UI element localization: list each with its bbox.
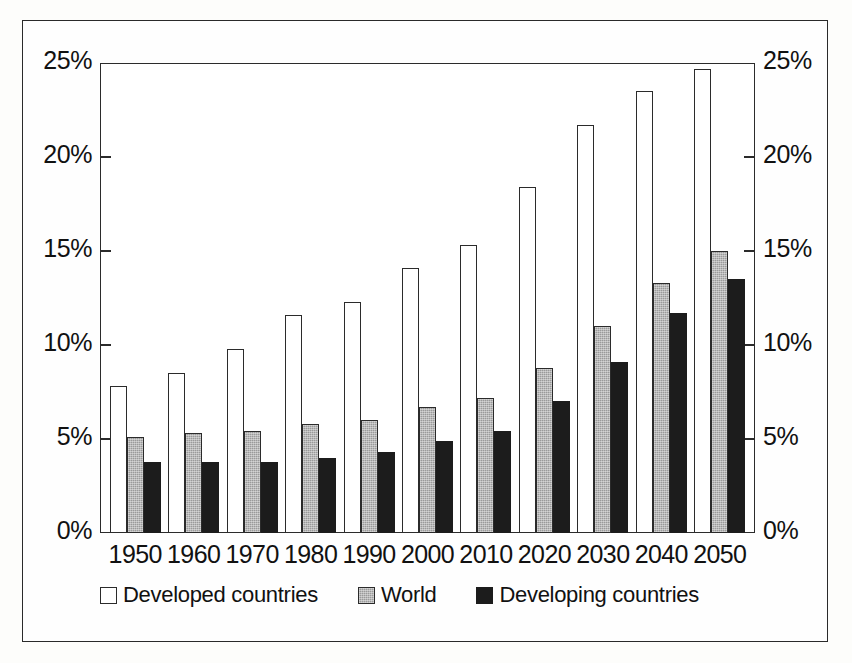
plot-area (100, 63, 755, 533)
y-axis-tick-left (100, 344, 111, 346)
y-axis-label-left: 15% (24, 234, 92, 263)
chart-figure: 0%5%10%15%20%25% 0%5%10%15%20%25% 195019… (0, 0, 852, 663)
x-axis-tick-label-1990: 1990 (340, 540, 398, 569)
y-axis-label-right: 10% (763, 328, 833, 357)
y-axis-tick-right (744, 438, 755, 440)
legend-label: Developed countries (123, 582, 318, 608)
legend-swatch-icon-world (358, 587, 375, 604)
x-axis-tick-label-2000: 2000 (398, 540, 456, 569)
x-axis-tick-label-1970: 1970 (223, 540, 281, 569)
legend-item-developing: Developing countries (476, 582, 698, 608)
legend-swatch-icon-developed (100, 587, 117, 604)
x-axis-tick-label-2010: 2010 (457, 540, 515, 569)
x-axis-labels: 1950196019701980199020002010202020302040… (100, 540, 755, 569)
legend-item-world: World (358, 582, 437, 608)
y-axis-tick-right (744, 156, 755, 158)
y-axis-label-right: 25% (763, 46, 833, 75)
x-axis-tick-label-2030: 2030 (574, 540, 632, 569)
y-axis-tick-left (100, 438, 111, 440)
y-axis-label-right: 5% (763, 422, 833, 451)
x-axis-tick-label-1980: 1980 (281, 540, 339, 569)
y-axis-tick-right (744, 344, 755, 346)
y-axis-tick-left (100, 156, 111, 158)
x-axis-tick-label-2040: 2040 (632, 540, 690, 569)
chart-legend: Developed countriesWorldDeveloping count… (100, 582, 780, 608)
y-axis-tick-right (744, 250, 755, 252)
y-axis-label-right: 20% (763, 140, 833, 169)
legend-label: World (381, 582, 437, 608)
x-axis-tick-label-2050: 2050 (691, 540, 749, 569)
y-axis-label-left: 10% (24, 328, 92, 357)
x-axis-tick-label-2020: 2020 (515, 540, 573, 569)
y-axis-label-left: 5% (24, 422, 92, 451)
x-axis-tick-label-1950: 1950 (106, 540, 164, 569)
y-axis-tick-left (100, 250, 111, 252)
y-axis-label-left: 25% (24, 46, 92, 75)
y-axis-label-left: 20% (24, 140, 92, 169)
y-axis-label-right: 15% (763, 234, 833, 263)
legend-label: Developing countries (499, 582, 698, 608)
legend-swatch-icon-developing (476, 587, 493, 604)
x-axis-tick-label-1960: 1960 (164, 540, 222, 569)
y-axis-label-left: 0% (24, 516, 92, 545)
legend-item-developed: Developed countries (100, 582, 318, 608)
y-axis-label-right: 0% (763, 516, 833, 545)
